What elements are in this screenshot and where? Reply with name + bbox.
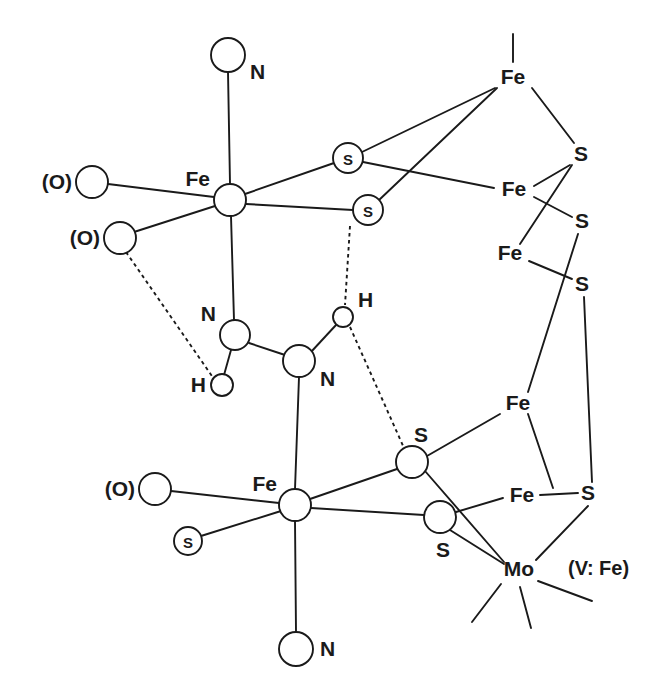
atom-label-S-circled-lo: S (183, 534, 193, 551)
atom-label-N-bottom: N (320, 637, 335, 660)
bond-Fe-top-right-S-tr-1 (532, 88, 574, 143)
bond-Fe-upper-S-bridge-1 (245, 163, 334, 194)
bond-N-mid-right-H-right (311, 325, 336, 352)
bond-Fe-lower-S-circled-lo (201, 511, 281, 536)
bond-S-bridge-2-Fe-top-right (378, 88, 497, 201)
atom-label-S-mid: S (414, 423, 428, 446)
atom-label-H-right: H (358, 288, 373, 311)
mo-stub-left (472, 584, 501, 622)
atom-label-Fe-right-2: Fe (502, 177, 527, 200)
atom-H-left (211, 374, 233, 396)
atom-label-S-tr-3: S (575, 272, 589, 295)
atom-label-O-upper: (O) (42, 170, 72, 193)
atom-label-S-tr-2: S (575, 209, 589, 232)
bond-S-low-right-Mo (536, 506, 588, 560)
atom-label-S-low-right: S (581, 481, 595, 504)
atom-Fe-upper (214, 184, 246, 216)
atom-label-O-lower: (O) (70, 226, 100, 249)
bond-Fe-upper-S-bridge-2 (246, 204, 353, 210)
atom-label-O-bottom: (O) (105, 477, 135, 500)
bond-S-tr-2-Fe-low-right (528, 234, 578, 392)
atom-label-N-mid-right: N (320, 367, 335, 390)
mo-stub-right (538, 581, 592, 601)
bond-S-mid-Fe-low-right (427, 414, 500, 456)
atom-label-Fe-low-right: Fe (506, 391, 531, 414)
bond-Fe-upper-O-lower (134, 206, 215, 232)
bond-Fe-lower-N-bottom (295, 521, 296, 632)
bond-S-bridge-1-Fe-right-2 (363, 162, 494, 188)
atom-S-mid (396, 446, 428, 478)
bond-Fe-upper-N-mid-left (231, 216, 234, 320)
bond-S-tr-1-Fe-right-3 (520, 165, 572, 244)
atom-label-S-lower-br: S (436, 538, 450, 561)
bond-S-bridge-1-Fe-top-right (362, 88, 495, 152)
bond-Fe-lower-S-mid (310, 469, 397, 499)
bond-N-mid-right-Fe-lower (295, 377, 299, 489)
atom-O-bottom (139, 473, 171, 505)
atom-label-Fe-lower: Fe (252, 472, 277, 495)
hbond-S-bridge-2-H-right (345, 226, 350, 305)
atom-S-lower-br (424, 501, 456, 533)
atom-label-S-tr-1: S (574, 142, 588, 165)
atom-label-S-bridge-1: S (343, 151, 353, 168)
bond-S-lower-br-Mo (450, 530, 504, 564)
bond-Fe-lower-S-lower-br (311, 508, 424, 515)
atom-label-H-left: H (191, 373, 206, 396)
atom-label-S-bridge-2: S (363, 203, 373, 220)
structure-diagram: N Fe (O) (O) S S Fe S Fe S Fe S (0, 0, 668, 684)
bond-N-mid-left-N-mid-right (249, 343, 285, 355)
atom-label-Fe-low-r2: Fe (510, 483, 535, 506)
atom-Fe-lower (279, 489, 311, 521)
bond-S-tr-3-S-low-right (584, 297, 592, 482)
bond-N-mid-left-H-left (224, 350, 231, 375)
atom-N-mid-left (220, 320, 250, 350)
bond-Fe-low-right-Fe-low-r2 (528, 414, 553, 488)
atom-label-Fe-upper: Fe (185, 167, 210, 190)
bond-N-top-Fe-upper (228, 72, 230, 184)
bond-Fe-low-r2-S-low-right (540, 493, 578, 495)
atom-label-Fe-top-right: Fe (501, 65, 526, 88)
diagram-canvas: N Fe (O) (O) S S Fe S Fe S Fe S (0, 0, 668, 684)
atom-O-lower (104, 222, 136, 254)
alt-metal-note: (V: Fe) (568, 557, 629, 579)
atom-label-N-top: N (250, 60, 265, 83)
atom-label-Fe-right-3: Fe (498, 241, 523, 264)
bond-S-lower-br-Fe-low-r2 (456, 498, 503, 512)
atom-label-N-mid-left: N (201, 302, 216, 325)
mo-stub-down (520, 587, 531, 628)
atom-N-bottom (279, 632, 313, 666)
atom-H-right (333, 307, 353, 327)
hbond-H-right-S-mid (350, 327, 404, 448)
atom-label-Mo: Mo (504, 557, 534, 580)
atom-N-mid-right (283, 345, 315, 377)
atom-N-top (211, 38, 245, 72)
atom-O-upper (76, 166, 108, 198)
